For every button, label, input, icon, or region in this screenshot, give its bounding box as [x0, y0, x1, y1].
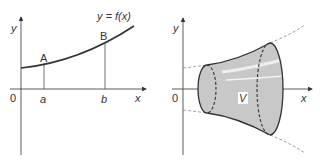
point-a-label: A	[40, 52, 48, 64]
function-curve	[21, 26, 134, 68]
left-panel: y y = f(x) A B 0 a b x	[10, 10, 146, 155]
point-b-label: B	[100, 30, 107, 42]
right-panel: V y 0 x	[172, 18, 312, 155]
lower-curve-extension-right	[270, 135, 305, 153]
upper-curve-extension-right	[270, 25, 305, 43]
left-x-label: x	[134, 92, 141, 104]
left-origin-label: 0	[10, 92, 16, 104]
right-origin-label: 0	[172, 92, 178, 104]
diagram-canvas: y y = f(x) A B 0 a b x V y 0 x	[0, 0, 320, 167]
right-y-label: y	[172, 22, 180, 34]
right-x-label: x	[300, 92, 307, 104]
left-y-label: y	[10, 22, 18, 34]
tick-b-label: b	[101, 93, 107, 105]
tick-a-label: a	[40, 93, 46, 105]
curve-label: y = f(x)	[96, 10, 131, 22]
